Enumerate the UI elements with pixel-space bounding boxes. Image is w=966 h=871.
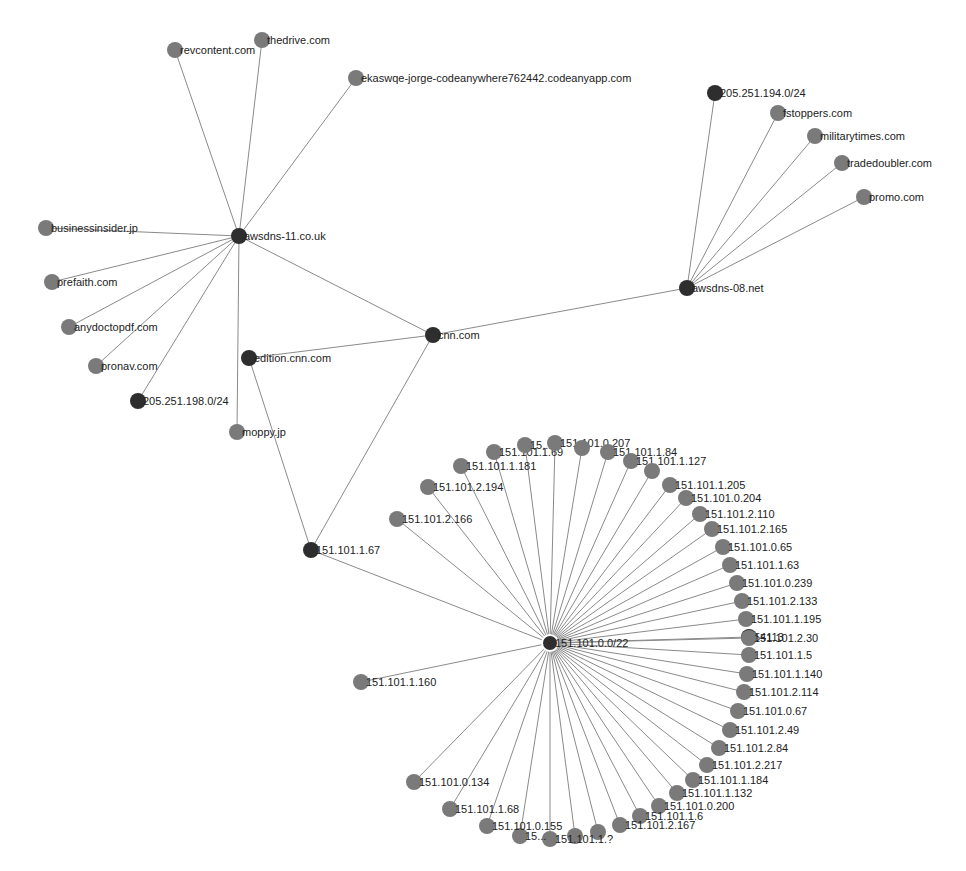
graph-edge: [249, 358, 311, 550]
graph-node-leaf[interactable]: 151.101.1.140: [739, 666, 822, 682]
graph-edge: [237, 236, 239, 432]
graph-node-leaf[interactable]: 151.101.2.49: [722, 722, 799, 738]
node-label: prefaith.com: [57, 276, 118, 288]
graph-node-hub[interactable]: 205.251.198.0/24: [130, 393, 229, 409]
graph-node-leaf[interactable]: fstoppers.com: [770, 105, 852, 121]
graph-node-leaf[interactable]: tradedoubler.com: [834, 155, 932, 171]
graph-node-leaf[interactable]: 151.101.1.68: [442, 801, 519, 817]
graph-node-leaf[interactable]: promo.com: [856, 189, 924, 205]
graph-edge: [525, 445, 550, 643]
graph-node-leaf[interactable]: 151.101.1.184: [685, 772, 768, 788]
graph-edge: [487, 643, 550, 826]
graph-node-leaf[interactable]: 151.101.2.114: [736, 684, 819, 700]
graph-edge: [550, 471, 652, 643]
graph-edge: [550, 643, 575, 836]
node-label: awsdns-08.net: [692, 282, 764, 294]
graph-edge: [550, 643, 640, 816]
edges-layer: [46, 40, 864, 839]
graph-node-leaf[interactable]: 151.101.2.165: [704, 521, 787, 537]
graph-node-leaf[interactable]: 151.101.2.30: [741, 630, 818, 646]
network-graph-canvas[interactable]: cnn.comawsdns-11.co.ukawsdns-08.netediti…: [0, 0, 966, 871]
graph-edge: [239, 236, 433, 335]
graph-node-leaf[interactable]: thedrive.com: [254, 32, 330, 48]
node-label: 151.101.0.204: [691, 492, 761, 504]
graph-node-leaf[interactable]: militarytimes.com: [807, 128, 905, 144]
graph-node-leaf[interactable]: [574, 440, 590, 456]
graph-node-hub[interactable]: awsdns-11.co.uk: [231, 228, 326, 244]
node-label: 151.101.0.155: [492, 820, 562, 832]
graph-edge: [414, 643, 550, 782]
node-label: 151.101.2.30: [754, 632, 818, 644]
node-label: cnn.com: [438, 329, 480, 341]
graph-node-leaf[interactable]: 151.101.1.127: [623, 453, 706, 469]
graph-node-leaf[interactable]: ekaswqe-jorge-codeanywhere762442.codeany…: [348, 70, 631, 86]
graph-node-leaf[interactable]: 151.101.2.167: [612, 817, 695, 833]
node-label: 151.101.0.239: [742, 577, 812, 589]
graph-node-leaf[interactable]: 151.101.0.65: [715, 539, 792, 555]
node-label: 151.101.1.205: [675, 479, 745, 491]
node-label: 151.101.0.67: [743, 705, 807, 717]
graph-node-leaf[interactable]: 151.101.1.195: [738, 611, 821, 627]
graph-edge: [239, 40, 262, 236]
node-label: moppy.jp: [242, 426, 286, 438]
node-label: 151.101.1.184: [698, 774, 768, 786]
graph-node-leaf[interactable]: 151.101.2.84: [711, 740, 788, 756]
graph-node-leaf[interactable]: 151.101.2.166: [389, 511, 472, 527]
graph-edge: [550, 565, 730, 643]
node-label: ekaswqe-jorge-codeanywhere762442.codeany…: [361, 72, 631, 84]
node-label: 151.101.1.63: [735, 559, 799, 571]
graph-node-leaf[interactable]: 151.101.2.133: [734, 593, 817, 609]
graph-node-leaf[interactable]: 151.101.0.67: [730, 703, 807, 719]
node-label: 151.101.1.68: [455, 803, 519, 815]
graph-node-leaf[interactable]: moppy.jp: [229, 424, 286, 440]
graph-node-leaf[interactable]: 151.101.1.63: [722, 557, 799, 573]
node-circle-icon[interactable]: [574, 440, 590, 456]
graph-edge: [550, 643, 730, 730]
graph-node-leaf[interactable]: anydoctopdf.com: [61, 319, 158, 335]
node-label: 151.101.2.49: [735, 724, 799, 736]
graph-node-leaf[interactable]: 151.101.0.134: [406, 774, 489, 790]
graph-node-hub[interactable]: cnn.com: [425, 327, 480, 343]
node-label: 151.101.0.0/22: [555, 637, 628, 649]
graph-node-leaf[interactable]: prefaith.com: [44, 274, 118, 290]
graph-node-leaf[interactable]: businessinsider.jp: [38, 220, 138, 236]
graph-node-leaf[interactable]: 15...: [517, 437, 551, 453]
node-label: 151.101.1.195: [751, 613, 821, 625]
graph-node-leaf[interactable]: [644, 463, 660, 479]
graph-node-leaf[interactable]: revcontent.com: [167, 42, 255, 58]
graph-node-hub[interactable]: edition.cnn.com: [241, 350, 331, 366]
graph-node-leaf[interactable]: 151.101.2.110: [692, 506, 775, 522]
graph-edge: [433, 288, 687, 335]
graph-node-hub[interactable]: awsdns-08.net: [679, 280, 764, 296]
node-label: 151.101.1.140: [752, 668, 822, 680]
graph-node-hub[interactable]: 151.101.0.0/22: [542, 635, 628, 651]
graph-node-hub[interactable]: 205.251.194.0/24: [707, 85, 806, 101]
node-label: 151.101.1.67: [316, 544, 380, 556]
node-label: 205.251.198.0/24: [143, 395, 229, 407]
node-label: awsdns-11.co.uk: [244, 230, 326, 242]
node-circle-icon[interactable]: [644, 463, 660, 479]
graph-node-leaf[interactable]: 151.101.1.132: [669, 785, 752, 801]
graph-node-leaf[interactable]: 151.101.2.194: [420, 479, 503, 495]
graph-node-leaf[interactable]: 151.101.1.181: [453, 458, 536, 474]
graph-node-leaf[interactable]: 151.101.1.?: [542, 831, 613, 847]
graph-node-leaf[interactable]: 151.101.0.239: [729, 575, 812, 591]
graph-node-leaf[interactable]: pronav.com: [88, 358, 158, 374]
graph-node-leaf[interactable]: 151.101.1.5: [741, 647, 812, 663]
nodes-layer: cnn.comawsdns-11.co.ukawsdns-08.netediti…: [38, 32, 932, 847]
graph-node-leaf[interactable]: 151.101.0.204: [678, 490, 761, 506]
graph-edge: [687, 197, 864, 288]
node-label: businessinsider.jp: [51, 222, 138, 234]
node-label: 151.101.2.133: [747, 595, 817, 607]
graph-node-leaf[interactable]: 151.101.1.205: [662, 477, 745, 493]
graph-node-leaf[interactable]: 151.101.1.160: [353, 674, 436, 690]
graph-edge: [520, 643, 550, 836]
graph-node-leaf[interactable]: 151.101.2.217: [699, 757, 782, 773]
graph-node-hub[interactable]: 151.101.1.67: [303, 542, 380, 558]
node-label: 151.101.0.65: [728, 541, 792, 553]
graph-edge: [138, 236, 239, 401]
graph-node-leaf[interactable]: 151.101.0.155: [479, 818, 562, 834]
node-label: 151.101.2.165: [717, 523, 787, 535]
node-label: 151.101.2.166: [402, 513, 472, 525]
node-label: 151.101.0.134: [419, 776, 489, 788]
